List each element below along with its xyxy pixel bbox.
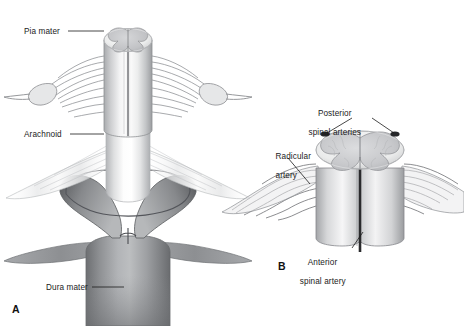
label-posterior-spinal-arteries: Posterior spinal arteries bbox=[299, 99, 361, 147]
label-anterior-line1: Anterior bbox=[308, 258, 337, 267]
panel-marker-b: B bbox=[278, 260, 286, 272]
anatomical-illustration bbox=[0, 0, 464, 326]
cord-cylinder-right-half bbox=[360, 168, 404, 246]
label-dura-mater: Dura mater bbox=[46, 283, 88, 293]
label-arachnoid: Arachnoid bbox=[24, 130, 62, 140]
dura-tube-shading bbox=[86, 276, 170, 326]
label-pia-mater: Pia mater bbox=[24, 27, 60, 37]
cord-cylinder-left-half bbox=[316, 168, 360, 246]
label-anterior-spinal-artery: Anterior spinal artery bbox=[290, 248, 345, 296]
label-radicular-artery: Radicular artery bbox=[266, 142, 311, 190]
label-radicular-line1: Radicular bbox=[276, 152, 312, 161]
posterior-spinal-artery-right-vessel bbox=[390, 131, 399, 136]
panel-marker-a: A bbox=[12, 303, 20, 315]
label-radicular-line2: artery bbox=[276, 171, 298, 180]
figure-container: Pia mater Arachnoid Dura mater A Posteri… bbox=[0, 0, 464, 326]
label-posterior-line2: spinal arteries bbox=[309, 128, 361, 137]
label-anterior-line2: spinal artery bbox=[300, 277, 346, 286]
label-posterior-line1: Posterior bbox=[318, 109, 352, 118]
canvas-background bbox=[0, 0, 464, 326]
